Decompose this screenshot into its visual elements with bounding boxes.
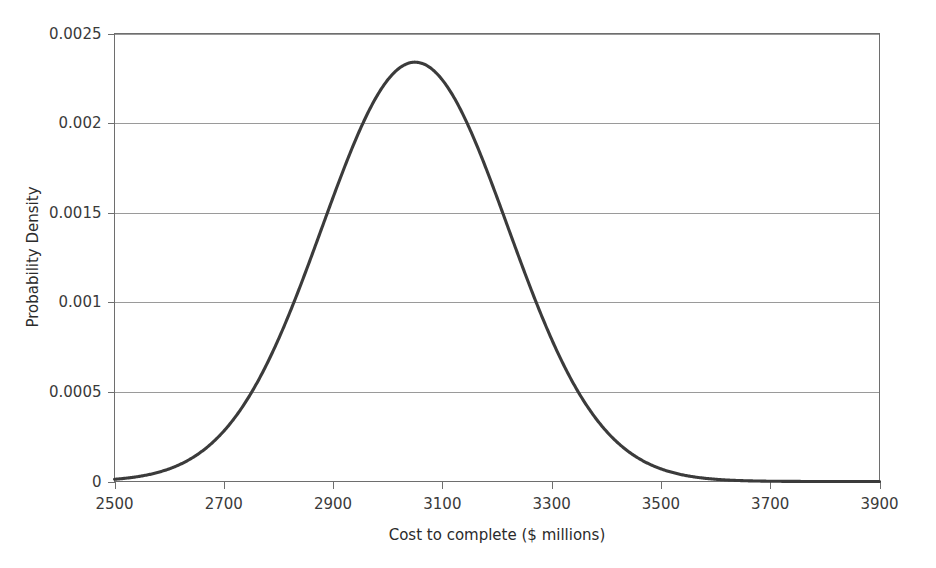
- x-axis-tick-label: 3700: [751, 495, 789, 513]
- x-axis-tick-label: 2900: [314, 495, 352, 513]
- chart-canvas: 00.00050.0010.00150.0020.0025 2500270029…: [0, 0, 936, 568]
- y-axis-tick-label: 0.002: [59, 114, 102, 132]
- y-axis-tick-label: 0.0015: [49, 204, 102, 222]
- y-axis-tick-label: 0: [92, 473, 102, 491]
- y-axis-tick-label: 0.0005: [49, 383, 102, 401]
- x-axis-tick-label: 2700: [205, 495, 243, 513]
- x-axis-title: Cost to complete ($ millions): [389, 526, 606, 544]
- x-axis-tick-label: 2500: [95, 495, 133, 513]
- y-axis-tick-label: 0.001: [59, 293, 102, 311]
- x-axis-tick-label: 3900: [860, 495, 898, 513]
- x-axis-tick-label: 3100: [423, 495, 461, 513]
- y-axis-title: Probability Density: [24, 186, 42, 327]
- x-axis-tick-label: 3300: [533, 495, 571, 513]
- probability-density-chart: 00.00050.0010.00150.0020.0025 2500270029…: [0, 0, 936, 568]
- y-axis-tick-label: 0.0025: [49, 25, 102, 43]
- x-axis-tick-label: 3500: [642, 495, 680, 513]
